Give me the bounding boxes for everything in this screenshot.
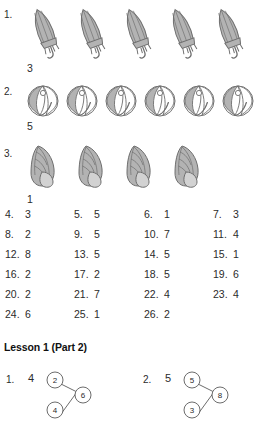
answer-item-label: 23.: [213, 288, 233, 300]
answer-item-11: 11.4: [213, 228, 239, 240]
answer-item-label: 16.: [5, 268, 25, 280]
bond-part-top-value: 5: [190, 376, 195, 385]
answer-item-label: 19.: [213, 268, 233, 280]
problem-number-1: 1.: [4, 9, 12, 20]
answer-item-value: 2: [25, 288, 31, 300]
answer-grid: 4.35.56.17.38.29.510.711.412.813.514.515…: [0, 208, 274, 328]
answer-item-label: 4.: [5, 208, 25, 220]
answer-item-label: 7.: [213, 208, 233, 220]
answer-item-label: 8.: [5, 228, 25, 240]
answer-item-value: 2: [164, 308, 170, 320]
umbrella-icon: [210, 6, 250, 62]
answer-item-value: 5: [94, 228, 100, 240]
beach-ball-icon: [182, 84, 216, 118]
answer-item-label: 17.: [74, 268, 94, 280]
answer-item-value: 1: [94, 308, 100, 320]
answer-item-6: 6.1: [144, 208, 170, 220]
answer-item-label: 15.: [213, 248, 233, 260]
bond-part-bottom-value: 4: [53, 406, 58, 415]
answer-item-15: 15.1: [213, 248, 239, 260]
umbrella-icon: [118, 6, 158, 62]
bond-connector: [61, 384, 77, 392]
answer-item-value: 5: [164, 268, 170, 280]
answer-item-value: 3: [233, 208, 239, 220]
number-bond-2: 2.5538: [141, 368, 271, 420]
answer-item-label: 11.: [213, 228, 233, 240]
bond-part-top-value: 2: [53, 376, 58, 385]
answer-item-18: 18.5: [144, 268, 170, 280]
answer-item-13: 13.5: [74, 248, 100, 260]
answer-row: 16.217.218.519.6: [0, 268, 274, 288]
answer-item-label: 24.: [5, 308, 25, 320]
beach-ball-icon: [26, 84, 60, 118]
umbrella-icon: [72, 6, 112, 62]
answer-row: 24.625.126.2: [0, 308, 274, 328]
bond-problem-number: 2.: [143, 374, 151, 385]
answer-row: 8.29.510.711.4: [0, 228, 274, 248]
answer-item-label: 12.: [5, 248, 25, 260]
answer-item-20: 20.2: [5, 288, 31, 300]
umbrella-icon: [26, 6, 66, 62]
beach-ball-icon: [143, 84, 177, 118]
answer-item-value: 3: [25, 208, 31, 220]
answer-item-12: 12.8: [5, 248, 31, 260]
answer-item-label: 22.: [144, 288, 164, 300]
bond-diagram: 538: [179, 368, 245, 420]
answer-item-value: 4: [164, 288, 170, 300]
answer-item-value: 5: [94, 208, 100, 220]
bond-whole-value: 6: [81, 391, 86, 400]
answer-item-4: 4.3: [5, 208, 31, 220]
answer-item-10: 10.7: [144, 228, 170, 240]
answer-item-8: 8.2: [5, 228, 31, 240]
beach-ball-icon: [104, 84, 138, 118]
answer-problem-1: 3: [27, 62, 33, 74]
answer-item-label: 6.: [144, 208, 164, 220]
problem-number-2: 2.: [4, 86, 12, 97]
seashell-icon: [122, 142, 158, 190]
answer-item-label: 21.: [74, 288, 94, 300]
answer-item-24: 24.6: [5, 308, 31, 320]
answer-item-value: 2: [94, 268, 100, 280]
answer-problem-2: 5: [27, 120, 33, 132]
number-bond-1: 1.4246: [4, 368, 134, 420]
answer-item-23: 23.4: [213, 288, 239, 300]
answer-item-value: 6: [233, 268, 239, 280]
answer-item-22: 22.4: [144, 288, 170, 300]
lesson-heading: Lesson 1 (Part 2): [4, 341, 87, 353]
answer-item-label: 20.: [5, 288, 25, 300]
answer-item-value: 5: [164, 248, 170, 260]
answer-problem-3: 1: [27, 193, 33, 205]
answer-item-label: 25.: [74, 308, 94, 320]
answer-item-16: 16.2: [5, 268, 31, 280]
answer-item-value: 7: [164, 228, 170, 240]
answer-item-label: 26.: [144, 308, 164, 320]
bond-whole-value: 8: [218, 391, 223, 400]
beach-ball-icon: [65, 84, 99, 118]
answer-row: 12.813.514.515.1: [0, 248, 274, 268]
answer-item-25: 25.1: [74, 308, 100, 320]
answer-item-label: 18.: [144, 268, 164, 280]
umbrella-icon: [164, 6, 204, 62]
answer-item-21: 21.7: [74, 288, 100, 300]
bond-answer: 5: [165, 372, 171, 384]
answer-item-value: 2: [25, 228, 31, 240]
bond-diagram: 246: [42, 368, 108, 420]
answer-item-value: 8: [25, 248, 31, 260]
seashell-icon: [74, 142, 110, 190]
bond-problem-number: 1.: [6, 374, 14, 385]
answer-item-17: 17.2: [74, 268, 100, 280]
answer-item-value: 5: [94, 248, 100, 260]
answer-item-value: 4: [233, 228, 239, 240]
answer-item-value: 1: [233, 248, 239, 260]
answer-item-7: 7.3: [213, 208, 239, 220]
answer-item-5: 5.5: [74, 208, 100, 220]
answer-item-value: 1: [164, 208, 170, 220]
beach-ball-icon: [221, 84, 255, 118]
bond-answer: 4: [28, 372, 34, 384]
answer-row: 20.221.722.423.4: [0, 288, 274, 308]
answer-item-label: 13.: [74, 248, 94, 260]
answer-item-14: 14.5: [144, 248, 170, 260]
answer-item-value: 6: [25, 308, 31, 320]
answer-item-label: 10.: [144, 228, 164, 240]
answer-item-9: 9.5: [74, 228, 100, 240]
